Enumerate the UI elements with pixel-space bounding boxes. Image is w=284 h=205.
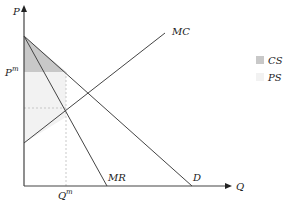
qm-label: Q — [58, 190, 66, 201]
producer-surplus-area — [24, 72, 66, 143]
legend-cs-swatch — [256, 56, 264, 64]
pm-label: P — [4, 67, 12, 78]
mc-label: MC — [171, 26, 190, 37]
y-axis-label: P — [12, 6, 20, 17]
qm-sup: m — [66, 188, 73, 196]
x-axis-label: Q — [236, 181, 244, 192]
y-axis-arrow-icon — [21, 5, 27, 12]
mr-label: MR — [107, 172, 126, 183]
pm-sup: m — [12, 65, 19, 73]
x-axis-arrow-icon — [225, 183, 232, 189]
d-label: D — [192, 172, 201, 183]
monopoly-diagram: P Q MC MR D P m Q m CS PS — [0, 0, 284, 205]
legend-ps-swatch — [256, 73, 264, 81]
legend-ps-label: PS — [267, 72, 282, 83]
legend-cs-label: CS — [268, 55, 283, 66]
